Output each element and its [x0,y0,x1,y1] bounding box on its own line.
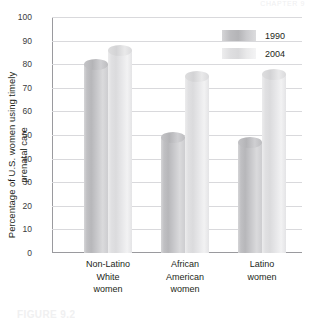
x-axis-category-label: Non-LatinoWhitewomen [65,258,151,296]
prenatal-care-bar-chart: CHAPTER 9 Percentage of U.S. women using… [0,0,317,318]
y-axis-tick-label: 80 [6,59,32,69]
bar-top-ellipse [108,45,132,56]
chart-legend: 19902004 [222,29,302,65]
x-axis-category-line: Latino [219,258,305,271]
y-axis-tick-label: 90 [6,36,32,46]
y-axis-tick-label: 0 [6,248,32,258]
bar-top-ellipse [262,69,286,80]
bar-body [262,74,286,253]
bar-body [238,142,262,253]
bar-1990-group-1 [84,59,108,253]
legend-label: 1990 [265,31,285,41]
bar-2004-group-1 [108,45,132,253]
bar-1990-group-3 [238,137,262,253]
x-axis-category-line: women [65,283,151,296]
legend-label: 2004 [265,49,285,59]
legend-swatch-2004 [222,48,256,59]
y-axis-tick-label: 40 [6,154,32,164]
y-axis-tick-label: 50 [6,130,32,140]
y-axis-tick-label: 70 [6,83,32,93]
legend-swatch-1990 [222,30,256,41]
bar-2004-group-3 [262,69,286,253]
bar-top-ellipse [185,71,209,82]
x-axis-category-line: American [142,271,228,284]
x-axis-category-line: African [142,258,228,271]
bar-body [185,76,209,253]
figure-caption: FIGURE 9.2 [17,309,75,318]
y-axis-tick-label: 100 [6,12,32,22]
x-axis-category-line: women [219,271,305,284]
y-axis-tick-label: 60 [6,106,32,116]
gridline [52,17,302,18]
legend-item-2004: 2004 [222,47,302,60]
y-axis-tick-label: 30 [6,177,32,187]
bar-body [108,50,132,253]
x-axis-category-label: AfricanAmericanwomen [142,258,228,296]
bar-body [84,64,108,253]
x-axis-category-line: women [142,283,228,296]
x-axis-category-line: Non-Latino [65,258,151,271]
bar-body [161,137,185,253]
x-axis-labels: Non-LatinoWhitewomenAfricanAmericanwomen… [52,258,302,304]
y-axis-tick-label: 20 [6,201,32,211]
bar-1990-group-2 [161,132,185,253]
bar-2004-group-2 [185,71,209,253]
x-axis-category-label: Latinowomen [219,258,305,283]
x-axis-category-line: White [65,271,151,284]
running-head: CHAPTER 9 [260,0,305,6]
y-axis-tick-label: 10 [6,224,32,234]
legend-item-1990: 1990 [222,29,302,42]
